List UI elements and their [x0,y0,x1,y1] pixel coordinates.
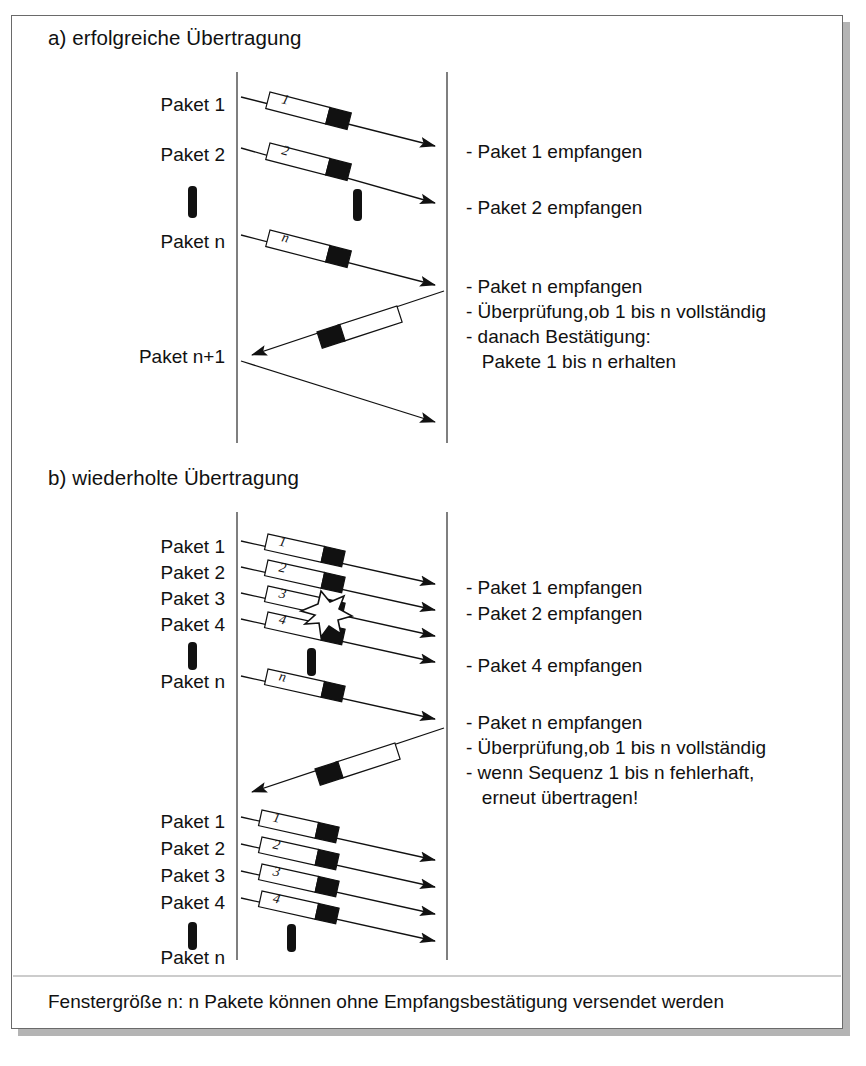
receiver-note-b-5: - Überprüfung,ob 1 bis n vollständig [466,738,766,757]
receiver-note-a-5: - danach Bestätigung: [466,327,651,346]
sender-label-b-retx-1: Paket 1 [60,812,225,831]
packet-glyph-retx-1-b [259,810,340,843]
sender-label-b-4: Paket 4 [60,615,225,634]
channel-ellipsis-a [353,189,362,221]
receiver-note-b-7: erneut übertragen! [466,788,638,807]
packet-glyph-n-a [266,230,352,267]
receiver-note-b-4: - Paket n empfangen [466,713,642,732]
receiver-note-b-6: - wenn Sequenz 1 bis n fehlerhaft, [466,763,754,782]
section-a-packets [266,92,402,348]
sender-ellipsis-upper-b [188,642,197,670]
sender-label-b-retx-n: Paket n [60,948,225,967]
receiver-note-a-3: - Paket n empfangen [466,277,642,296]
sender-label-b-retx-2: Paket 2 [60,839,225,858]
receiver-note-b-3: - Paket 4 empfangen [466,656,642,675]
receiver-note-b-2: - Paket 2 empfangen [466,604,642,623]
receiver-note-b-1: - Paket 1 empfangen [466,578,642,597]
section-a-title: a) erfolgreiche Übertragung [48,28,301,49]
arrow-packet-n1-a [241,361,435,422]
packet-glyph-retx-3-b [259,864,340,897]
receiver-note-a-1: - Paket 1 empfangen [466,142,642,161]
sender-label-b-3: Paket 3 [60,589,225,608]
receiver-note-a-2: - Paket 2 empfangen [466,198,642,217]
sender-label-a-n: Paket n [60,232,225,251]
section-b-title: b) wiederholte Übertragung [48,468,299,489]
packet-glyph-n-b [265,669,346,702]
sender-ellipsis-a [188,186,197,218]
channel-ellipsis-upper-b [307,648,316,676]
sender-label-a-2: Paket 2 [60,145,225,164]
sender-ellipsis-lower-b [188,922,197,950]
sender-label-b-2: Paket 2 [60,563,225,582]
packet-glyph-ack-b [315,743,400,785]
sender-label-b-retx-4: Paket 4 [60,893,225,912]
figure-root: a) erfolgreiche Übertragung Paket 1 Pake… [0,0,866,1066]
sender-label-a-1: Paket 1 [60,95,225,114]
figure-caption: Fenstergröße n: n Pakete können ohne Emp… [48,992,724,1011]
receiver-note-a-6: Pakete 1 bis n erhalten [466,352,676,371]
sender-label-b-n: Paket n [60,672,225,691]
sender-label-b-retx-3: Paket 3 [60,866,225,885]
channel-ellipsis-lower-b [287,924,296,952]
receiver-note-a-4: - Überprüfung,ob 1 bis n vollständig [466,302,766,321]
section-a-ellipsis [188,186,362,221]
packet-glyph-retx-4-b [259,891,340,924]
packet-glyph-2-a [266,143,352,180]
packet-glyph-retx-2-b [259,837,340,870]
packet-glyph-1-a [266,92,352,129]
sender-label-b-1: Paket 1 [60,537,225,556]
packet-glyph-ack-a [317,306,402,348]
sender-label-a-n-plus-1: Paket n+1 [60,347,225,366]
